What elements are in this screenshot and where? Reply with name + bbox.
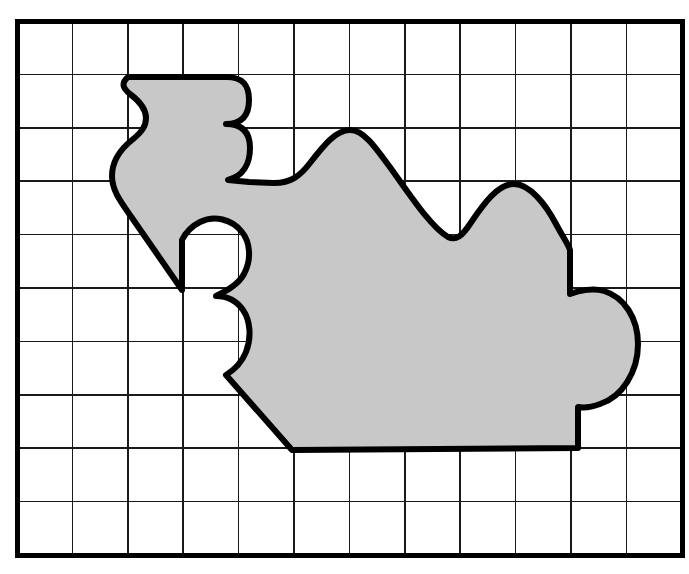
figure-page bbox=[0, 0, 689, 574]
grid-figure bbox=[0, 0, 689, 574]
